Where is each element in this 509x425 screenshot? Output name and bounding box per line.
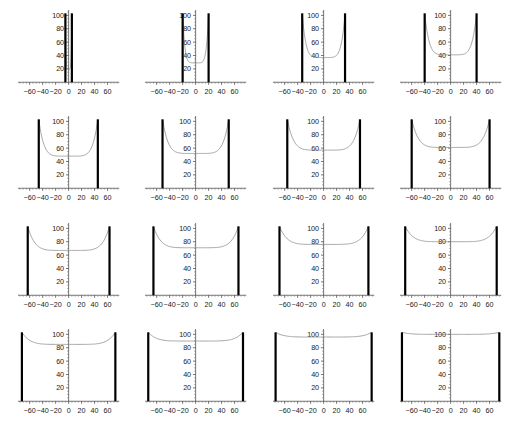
x-tick-label: 60 [104,406,112,415]
y-tick-label: 80 [311,237,319,246]
x-tick-label: −20 [304,299,316,308]
x-tick-label: 20 [78,87,86,96]
plot-panel: −60−40−20020406020406080100 [0,0,127,106]
x-tick-label: 20 [459,87,467,96]
x-tick-label: 60 [231,299,239,308]
x-tick-label: −60 [24,193,36,202]
x-tick-label: −20 [177,87,189,96]
x-tick-label: 0 [448,299,452,308]
x-tick-label: 0 [67,193,71,202]
x-tick-label: 20 [205,87,213,96]
y-tick-label: 100 [52,223,64,232]
x-tick-label: −60 [151,193,163,202]
y-tick-label: 100 [52,117,64,126]
x-tick-label: −60 [24,87,36,96]
x-tick-label: −40 [164,193,176,202]
plot-panel: −60−40−20020406020406080100 [382,213,509,319]
x-tick-label: −20 [431,299,443,308]
x-tick-label: 20 [78,406,86,415]
x-tick-label: −60 [24,406,36,415]
x-tick-label: 0 [67,299,71,308]
y-tick-label: 80 [311,131,319,140]
y-tick-label: 80 [183,237,191,246]
y-tick-label: 20 [438,383,446,392]
x-tick-label: −60 [405,406,417,415]
y-tick-label: 60 [56,38,64,47]
y-tick-label: 20 [56,64,64,73]
y-tick-label: 20 [438,64,446,73]
y-tick-label: 100 [179,117,191,126]
x-tick-label: 60 [358,299,366,308]
plot-panel: −60−40−20020406020406080100 [0,319,127,425]
x-tick-label: 40 [218,193,226,202]
plot-panel: −60−40−20020406020406080100 [127,319,254,425]
x-tick-label: 20 [459,406,467,415]
y-tick-label: 40 [56,51,64,60]
x-tick-label: 40 [345,406,353,415]
x-tick-label: 60 [104,87,112,96]
x-tick-label: 40 [345,87,353,96]
y-tick-label: 20 [183,383,191,392]
y-tick-label: 80 [311,343,319,352]
y-tick-label: 80 [56,131,64,140]
y-tick-label: 100 [307,11,319,20]
y-axis: 20406080100 [307,10,324,82]
x-tick-label: 0 [194,193,198,202]
x-tick-label: 20 [205,193,213,202]
y-tick-label: 20 [311,277,319,286]
y-tick-label: 20 [56,277,64,286]
x-tick-label: 40 [472,87,480,96]
x-tick-label: −20 [431,406,443,415]
y-tick-label: 40 [438,264,446,273]
x-tick-label: 60 [485,87,493,96]
x-tick-label: −40 [164,299,176,308]
plot-panel: −60−40−20020406020406080100 [127,0,254,106]
x-tick-label: 60 [358,193,366,202]
x-tick-label: 20 [78,193,86,202]
x-tick-label: −60 [278,406,290,415]
x-tick-label: 60 [231,406,239,415]
x-tick-label: 40 [472,406,480,415]
plot-panel: −60−40−20020406020406080100 [127,106,254,212]
y-tick-label: 20 [438,277,446,286]
x-tick-label: −20 [304,193,316,202]
x-tick-label: −20 [50,299,62,308]
x-axis: −60−40−200204060 [18,401,119,415]
x-tick-label: 60 [104,299,112,308]
y-tick-label: 100 [179,11,191,20]
y-tick-label: 100 [307,330,319,339]
x-tick-label: −40 [164,87,176,96]
x-tick-label: −20 [431,193,443,202]
x-tick-label: 60 [485,299,493,308]
y-tick-label: 20 [56,171,64,180]
x-tick-label: 40 [345,299,353,308]
x-tick-label: 40 [218,87,226,96]
x-tick-label: 20 [78,299,86,308]
x-tick-label: 0 [194,87,198,96]
x-axis: −60−40−200204060 [145,295,246,309]
y-tick-label: 100 [52,330,64,339]
x-tick-label: 60 [485,193,493,202]
x-axis: −60−40−200204060 [400,295,501,309]
x-axis: −60−40−200204060 [273,295,374,309]
x-tick-label: 40 [91,87,99,96]
x-tick-label: 60 [485,406,493,415]
y-axis: 20406080100 [179,116,196,188]
y-tick-label: 100 [52,11,64,20]
x-axis: −60−40−200204060 [18,82,119,96]
x-tick-label: −20 [177,406,189,415]
plot-panel: −60−40−20020406020406080100 [382,106,509,212]
y-tick-label: 60 [56,144,64,153]
x-tick-label: 0 [67,87,71,96]
x-axis: −60−40−200204060 [400,401,501,415]
y-tick-label: 20 [311,64,319,73]
plot-panel: −60−40−20020406020406080100 [255,106,382,212]
y-tick-label: 60 [311,144,319,153]
x-tick-label: −20 [177,299,189,308]
x-tick-label: −20 [50,406,62,415]
x-tick-label: 60 [358,87,366,96]
y-tick-label: 40 [311,157,319,166]
x-tick-label: 0 [448,406,452,415]
x-tick-label: −40 [291,193,303,202]
plot-panel: −60−40−20020406020406080100 [255,319,382,425]
